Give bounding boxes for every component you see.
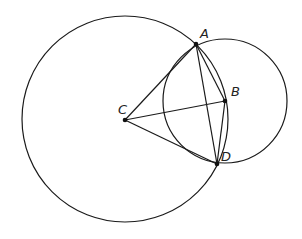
- point-A: [194, 42, 199, 47]
- point-C: [123, 118, 128, 123]
- label-A: A: [199, 26, 209, 41]
- label-D: D: [221, 149, 231, 164]
- label-B: B: [231, 84, 240, 99]
- point-B: [223, 99, 228, 104]
- point-D: [215, 162, 220, 167]
- geometry-diagram: A B C D: [0, 0, 302, 239]
- label-C: C: [118, 102, 128, 117]
- segment-AD: [196, 44, 217, 164]
- segment-AB: [196, 44, 225, 101]
- segment-CD: [125, 120, 217, 164]
